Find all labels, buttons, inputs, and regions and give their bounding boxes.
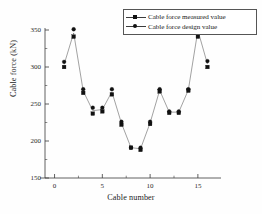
axes-group: [40, 28, 221, 178]
y-tick-label: 250: [15, 100, 41, 108]
y-tick-label: 200: [15, 137, 41, 145]
y-tick-label: 350: [15, 26, 41, 34]
legend-marker-circle-icon: [126, 22, 146, 31]
y-tick-label: 300: [15, 63, 41, 71]
y-tick-label: 150: [15, 174, 41, 182]
x-tick-label: 15: [188, 182, 208, 190]
x-axis-title: Cable number: [45, 193, 217, 202]
chart-legend: Cable force measured value Cable force d…: [123, 9, 257, 35]
x-tick-label: 10: [140, 182, 160, 190]
series-points: [62, 22, 209, 152]
legend-marker-square-icon: [126, 13, 146, 22]
legend-label-design: Cable force design value: [146, 23, 217, 31]
series-lines: [64, 30, 207, 148]
x-tick-label: 5: [92, 182, 112, 190]
x-tick-label: 0: [45, 182, 65, 190]
legend-item-measured: Cable force measured value: [126, 13, 254, 22]
chart-figure: 150200250300350 051015 Cable force (kN) …: [0, 0, 262, 214]
legend-item-design: Cable force design value: [126, 22, 254, 31]
y-axis-title: Cable force (kN): [9, 9, 18, 129]
legend-label-measured: Cable force measured value: [146, 13, 226, 21]
